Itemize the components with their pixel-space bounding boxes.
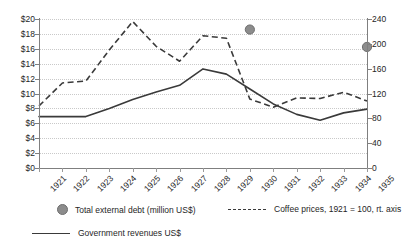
y-axis-right-tick [368, 19, 372, 20]
x-axis-tick-label: 1930 [259, 174, 279, 194]
y-axis-left-tick [35, 34, 39, 35]
x-axis-tick [156, 168, 157, 172]
y-axis-right-tick-label: 40 [372, 139, 406, 148]
legend-label-coffee-prices: Coffee prices, 1921 = 100, rt. axis [274, 204, 401, 214]
y-axis-left-tick [35, 153, 39, 154]
y-axis-left-tick-label: $0 [1, 164, 35, 173]
x-axis-tick [250, 168, 251, 172]
y-axis-right-tick [368, 94, 372, 95]
y-axis-right-tick [368, 44, 372, 45]
x-axis-tick-label: 1933 [330, 174, 350, 194]
solid-line-icon [32, 233, 70, 234]
x-axis-tick-label: 1928 [213, 174, 233, 194]
x-axis-tick-label: 1932 [306, 174, 326, 194]
x-axis-tick-label: 1922 [72, 174, 92, 194]
y-axis-left-tick-label: $18 [1, 29, 35, 38]
x-axis-tick [133, 168, 134, 172]
x-axis-tick [109, 168, 110, 172]
x-axis-tick-label: 1926 [166, 174, 186, 194]
y-axis-right-tick [368, 118, 372, 119]
data-point-total-external-debt [245, 25, 254, 34]
x-axis-tick-label: 1931 [283, 174, 303, 194]
y-axis-left-tick [35, 108, 39, 109]
y-axis-left-tick [35, 94, 39, 95]
y-axis-left-tick-label: $20 [1, 15, 35, 24]
x-axis-tick [344, 168, 345, 172]
y-axis-right-tick-label: 240 [372, 15, 406, 24]
series-layer [39, 19, 367, 168]
x-axis-tick-label: 1927 [189, 174, 209, 194]
plot-area [39, 19, 367, 168]
y-axis-left-tick-label: $12 [1, 74, 35, 83]
y-axis-left-tick-label: $10 [1, 89, 35, 98]
x-axis-tick [226, 168, 227, 172]
y-axis-right-tick-label: 160 [372, 64, 406, 73]
y-axis-right-tick [368, 69, 372, 70]
x-axis-tick [273, 168, 274, 172]
y-axis-right-tick-label: 120 [372, 89, 406, 98]
x-axis-tick-label: 1929 [236, 174, 256, 194]
y-axis-left-tick-label: $4 [1, 134, 35, 143]
y-axis-left-tick-label: $14 [1, 59, 35, 68]
chart-legend: Total external debt (million US$) Coffee… [0, 199, 411, 251]
legend-item-total-external-debt: Total external debt (million US$) [57, 204, 195, 215]
y-axis-right-tick-label: 200 [372, 39, 406, 48]
x-axis-tick [320, 168, 321, 172]
y-axis-left-tick [35, 168, 39, 169]
y-axis-left-tick [35, 19, 39, 20]
x-axis-tick [62, 168, 63, 172]
x-axis-tick [86, 168, 87, 172]
x-axis-tick-label: 1921 [49, 174, 69, 194]
y-axis-left-tick-label: $6 [1, 119, 35, 128]
x-axis-tick-label: 1925 [142, 174, 162, 194]
y-axis-right-tick-label: 0 [372, 164, 406, 173]
y-axis-right-tick-label: 80 [372, 114, 406, 123]
legend-item-coffee-prices: Coffee prices, 1921 = 100, rt. axis [228, 204, 401, 214]
series-coffee-prices [39, 21, 367, 107]
y-axis-left-tick-label: $2 [1, 149, 35, 158]
x-axis-tick [297, 168, 298, 172]
x-axis-tick [203, 168, 204, 172]
chart-container: $0$2$4$6$8$10$12$14$16$18$20 04080120160… [0, 0, 411, 251]
y-axis-left-tick [35, 49, 39, 50]
y-axis-left-tick-label: $8 [1, 104, 35, 113]
series-total-external-debt [245, 25, 371, 52]
x-axis-tick-label: 1923 [95, 174, 115, 194]
y-axis-left-tick [35, 138, 39, 139]
y-axis-right-tick [368, 143, 372, 144]
x-axis-tick [180, 168, 181, 172]
y-axis-left-tick-label: $16 [1, 44, 35, 53]
y-axis-left [39, 18, 40, 169]
y-axis-left-tick [35, 64, 39, 65]
series-government-revenues [39, 69, 367, 120]
dashed-line-icon [228, 209, 266, 210]
y-axis-left-tick [35, 123, 39, 124]
x-axis-tick-label: 1924 [119, 174, 139, 194]
x-axis-tick-label: 1934 [353, 174, 373, 194]
x-axis-tick [39, 168, 40, 172]
legend-label-government-revenues: Government revenues US$ [78, 228, 181, 238]
circle-marker-icon [57, 204, 68, 215]
y-axis-right-tick [368, 168, 372, 169]
y-axis-left-tick [35, 79, 39, 80]
legend-label-total-external-debt: Total external debt (million US$) [75, 205, 195, 215]
legend-item-government-revenues: Government revenues US$ [32, 228, 181, 238]
